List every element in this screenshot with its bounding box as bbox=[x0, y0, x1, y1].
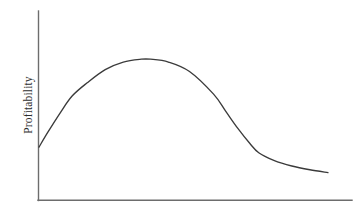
y-axis-label: Profitability bbox=[22, 45, 34, 165]
profitability-curve bbox=[39, 59, 328, 173]
chart-plot-area bbox=[0, 0, 363, 216]
profitability-chart-figure: Profitability bbox=[0, 0, 363, 216]
